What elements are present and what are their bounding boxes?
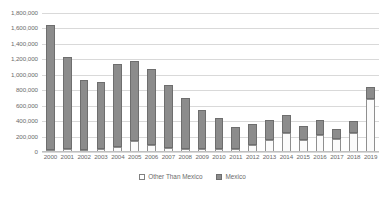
x-axis-tick-label: 2016 <box>313 154 326 160</box>
x-axis-tick-label: 2008 <box>179 154 192 160</box>
bar-group <box>248 124 257 152</box>
bar-segment-mexico <box>366 87 375 99</box>
bar-group <box>299 126 308 152</box>
x-axis: 2000200120022003200420052006200720082009… <box>42 154 379 166</box>
bar-segment-other-than-mexico <box>316 135 325 152</box>
x-axis-tick-label: 2014 <box>280 154 293 160</box>
bar-segment-other-than-mexico <box>366 99 375 152</box>
bar-segment-mexico <box>130 61 139 141</box>
y-axis-tick-label: 200,000 <box>16 133 38 139</box>
bar-segment-mexico <box>248 124 257 144</box>
bar-segment-mexico <box>113 64 122 147</box>
bar-group <box>231 127 240 152</box>
bar-segment-mexico <box>80 80 89 150</box>
bar-group <box>147 69 156 152</box>
bar-group <box>46 25 55 152</box>
bar-group <box>181 98 190 152</box>
bar-group <box>130 61 139 152</box>
x-axis-tick-label: 2007 <box>162 154 175 160</box>
x-axis-tick-label: 2011 <box>229 154 242 160</box>
x-axis-tick-label: 2015 <box>296 154 309 160</box>
x-axis-tick-label: 2005 <box>128 154 141 160</box>
bar-segment-mexico <box>46 25 55 150</box>
legend-swatch-other-than-mexico-icon <box>139 174 145 180</box>
bar-segment-mexico <box>265 120 274 140</box>
bar-segment-mexico <box>299 126 308 141</box>
y-axis-tick-label: 1,000,000 <box>11 72 38 78</box>
x-axis-tick-label: 2009 <box>195 154 208 160</box>
bar-group <box>80 80 89 152</box>
x-axis-tick-label: 2018 <box>347 154 360 160</box>
y-axis-tick-label: 400,000 <box>16 118 38 124</box>
bar-group <box>97 82 106 152</box>
plot-area <box>42 13 379 152</box>
stacked-bar-chart: 0200,000400,000600,000800,0001,000,0001,… <box>0 0 385 197</box>
bar-group <box>113 64 122 152</box>
bar-segment-mexico <box>349 121 358 133</box>
y-axis-tick-label: 800,000 <box>16 87 38 93</box>
x-axis-tick-label: 2006 <box>145 154 158 160</box>
x-axis-tick-label: 2003 <box>94 154 107 160</box>
bar-group <box>366 87 375 152</box>
bar-segment-mexico <box>282 115 291 133</box>
bar-group <box>198 110 207 152</box>
bar-group <box>316 120 325 152</box>
bar-group <box>282 115 291 152</box>
chart-legend: Other Than MexicoMexico <box>0 174 385 180</box>
bar-group <box>265 120 274 152</box>
y-axis-tick-label: 1,200,000 <box>11 56 38 62</box>
bar-segment-mexico <box>316 120 325 135</box>
x-axis-tick-label: 2010 <box>212 154 225 160</box>
y-axis-tick-label: 600,000 <box>16 103 38 109</box>
legend-swatch-mexico-icon <box>216 174 222 180</box>
x-axis-tick-label: 2004 <box>111 154 124 160</box>
bar-group <box>164 85 173 152</box>
bar-group <box>215 118 224 152</box>
bar-segment-mexico <box>164 85 173 148</box>
y-axis-tick-label: 1,800,000 <box>11 10 38 16</box>
y-axis-tick-label: 1,600,000 <box>11 25 38 31</box>
bar-segment-mexico <box>97 82 106 150</box>
bar-segment-mexico <box>181 98 190 149</box>
bar-segment-mexico <box>215 118 224 149</box>
legend-item[interactable]: Other Than Mexico <box>139 174 202 180</box>
y-axis-tick-label: 1,400,000 <box>11 41 38 47</box>
bar-segment-other-than-mexico <box>282 133 291 152</box>
legend-label: Other Than Mexico <box>148 174 202 180</box>
x-axis-tick-label: 2019 <box>364 154 377 160</box>
x-axis-tick-label: 2012 <box>246 154 259 160</box>
bar-segment-mexico <box>198 110 207 149</box>
x-axis-tick-label: 2002 <box>77 154 90 160</box>
x-axis-line <box>42 151 379 152</box>
bar-series-container <box>42 13 379 152</box>
bar-group <box>349 121 358 152</box>
bar-segment-mexico <box>231 127 240 149</box>
y-axis: 0200,000400,000600,000800,0001,000,0001,… <box>0 13 38 152</box>
x-axis-tick-label: 2001 <box>61 154 74 160</box>
bar-segment-mexico <box>63 57 72 150</box>
bar-segment-other-than-mexico <box>349 133 358 152</box>
bar-group <box>63 57 72 152</box>
x-axis-tick-label: 2013 <box>263 154 276 160</box>
bar-segment-mexico <box>147 69 156 145</box>
legend-label: Mexico <box>225 174 245 180</box>
gridline <box>42 152 379 153</box>
legend-item[interactable]: Mexico <box>216 174 245 180</box>
bar-segment-mexico <box>332 129 341 139</box>
x-axis-tick-label: 2017 <box>330 154 343 160</box>
bar-group <box>332 129 341 152</box>
y-axis-tick-label: 0 <box>35 149 38 155</box>
x-axis-tick-label: 2000 <box>44 154 57 160</box>
